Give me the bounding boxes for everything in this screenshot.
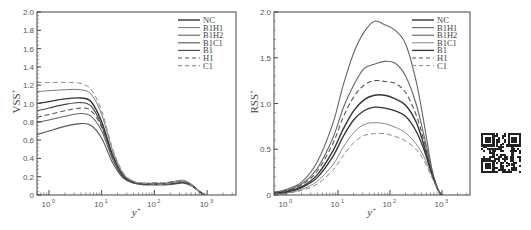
x-tick-exponent: 2 [157,198,160,204]
y-tick-label: 0.5 [260,145,272,154]
x-tick-label: 10 [94,200,103,209]
rss-plot-panel: 00.51.01.52.0100101102103RSS+y+NCB1H1B1H… [248,8,470,218]
y-tick-label: 2.0 [260,8,272,17]
series-group [274,21,442,195]
vss-plot-panel: 00.20.40.60.81.01.21.41.61.82.0100101102… [10,8,236,218]
y-tick-label: 2.0 [23,8,35,17]
x-tick-label: 10 [42,200,51,209]
y-tick-label: 0.8 [23,118,35,127]
y-tick-label: 0 [30,191,35,200]
x-axis-title: y+ [366,206,377,218]
series-group [37,82,205,195]
y-tick-label: 1.2 [23,81,35,90]
legend: NCB1H1B1H2B1C1B1H1C1 [178,15,223,71]
qr-code-image [481,133,521,175]
legend-label-c1: C1 [437,61,447,71]
x-tick-label: 10 [383,200,392,209]
x-tick-exponent: 3 [210,198,213,204]
x-tick-label: 10 [200,200,209,209]
y-tick-label: 1.8 [23,26,35,35]
y-tick-label: 1.0 [260,100,272,109]
x-tick-exponent: 2 [393,198,396,204]
x-axis-title: y+ [131,206,142,218]
series-line-h1 [274,80,442,195]
series-line-b1c1 [37,123,205,195]
x-tick-exponent: 1 [341,198,344,204]
x-tick-exponent: 0 [289,198,292,204]
y-tick-label: 0.4 [23,154,35,163]
x-tick-exponent: 0 [52,198,55,204]
y-tick-label: 1.4 [23,63,35,72]
x-tick-label: 10 [279,200,288,209]
x-tick-exponent: 1 [105,198,108,204]
y-tick-label: 0.2 [23,173,35,182]
y-tick-label: 1.0 [23,100,35,109]
y-tick-label: 0.6 [23,136,35,145]
y-tick-label: 1.5 [260,54,272,63]
x-tick-label: 10 [435,200,444,209]
y-axis-title: VSS+ [10,89,22,113]
y-tick-label: 0 [267,191,272,200]
series-line-b1 [274,107,442,195]
y-tick-label: 1.6 [23,45,35,54]
legend-label-c1: C1 [203,61,213,71]
chart-figure: 00.20.40.60.81.01.21.41.61.82.0100101102… [0,0,531,230]
x-tick-label: 10 [331,200,340,209]
y-axis-title: RSS+ [248,90,260,114]
x-tick-label: 10 [147,200,156,209]
x-tick-exponent: 3 [445,198,448,204]
legend: NCB1H1B1H2B1C1B1H1C1 [412,15,457,71]
